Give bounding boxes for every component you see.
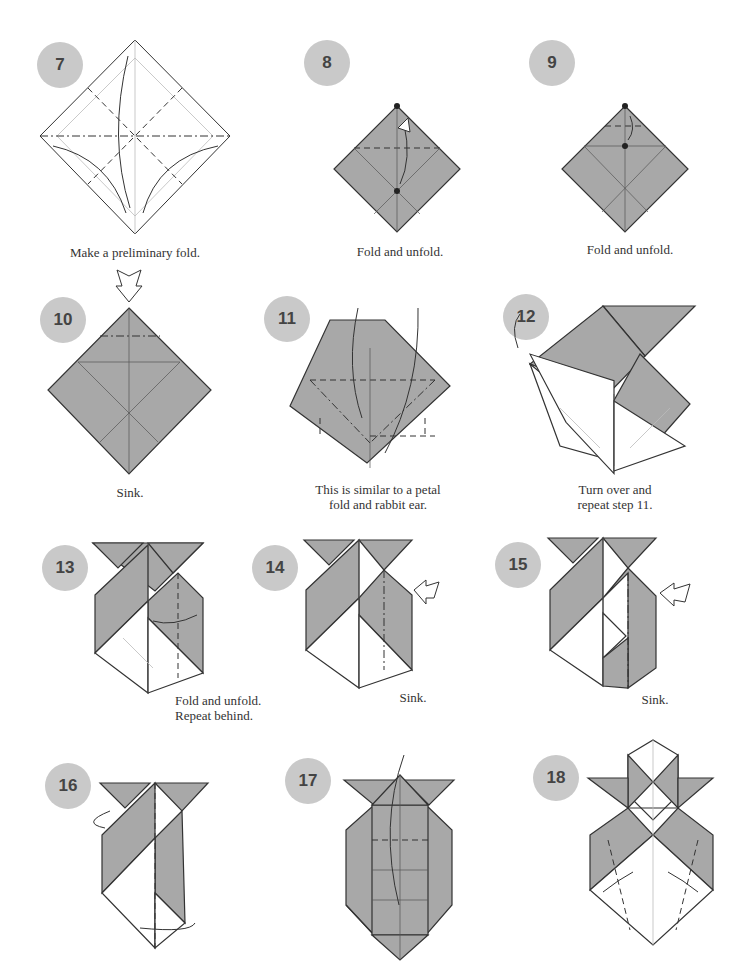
- sink-arrow-icon: [660, 583, 690, 606]
- step-number-badge: 15: [495, 542, 541, 588]
- sink-diagram: [304, 540, 444, 690]
- step-caption: Fold and unfold. Repeat behind.: [175, 693, 305, 723]
- fold-unfold-diagram: [334, 104, 464, 234]
- sink-arrow-icon: [114, 268, 144, 304]
- step-caption: Sink.: [388, 690, 438, 705]
- reverse-fold-diagram: [100, 783, 210, 948]
- step-number-badge: 16: [45, 763, 91, 809]
- step-caption: Sink.: [630, 692, 680, 707]
- step-caption: Make a preliminary fold.: [40, 245, 230, 260]
- turn-over-diagram: [530, 306, 705, 476]
- fold-up-diagram: [344, 755, 464, 960]
- sink-arrow-icon: [414, 580, 439, 604]
- preliminary-fold-diagram: [38, 38, 233, 238]
- final-step-diagram: [588, 740, 718, 950]
- step-number-badge: 13: [42, 545, 88, 591]
- step-number-badge: 18: [533, 755, 579, 801]
- step-caption: Fold and unfold.: [320, 244, 480, 259]
- step-number-badge: 17: [285, 758, 331, 804]
- fold-unfold-repeat-diagram: [93, 543, 205, 695]
- step-caption: Turn over and repeat step 11.: [555, 482, 675, 512]
- fold-unfold-diagram: [562, 104, 692, 234]
- step-number-badge: 14: [252, 545, 298, 591]
- step-caption: Sink.: [100, 485, 160, 500]
- petal-rabbit-ear-diagram: [290, 308, 460, 478]
- step-number-badge: 8: [304, 40, 350, 86]
- step-caption: This is similar to a petal fold and rabb…: [298, 482, 458, 512]
- step-caption: Fold and unfold.: [550, 242, 710, 257]
- sink-diagram: [48, 306, 214, 476]
- step-number-badge: 9: [529, 40, 575, 86]
- sink-diagram: [548, 538, 718, 688]
